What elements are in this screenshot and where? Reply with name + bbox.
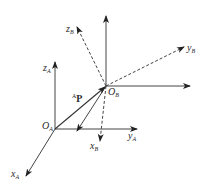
y-b-axis: [106, 47, 184, 86]
label-y-b: yB: [187, 43, 195, 54]
label-y-a: yA: [128, 131, 136, 142]
label-z-b: zB: [66, 24, 74, 35]
label-x-a: xA: [11, 169, 19, 180]
label-z-a: zA: [43, 63, 51, 74]
label-o-a: OA: [42, 121, 53, 132]
label-position-vector: AP: [72, 93, 82, 104]
x-a-axis: [26, 129, 55, 176]
frames-diagram: [0, 0, 206, 190]
z-b-axis: [77, 27, 106, 86]
label-o-b: OB: [108, 87, 119, 98]
label-x-b: xB: [90, 141, 98, 152]
